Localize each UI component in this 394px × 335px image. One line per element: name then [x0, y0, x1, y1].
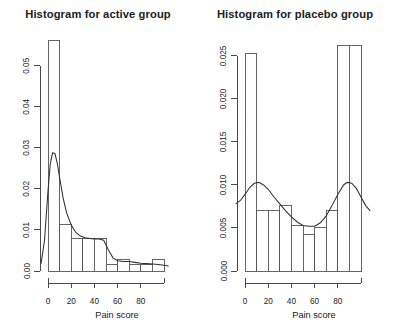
y-tick-label: 0.000: [220, 260, 229, 281]
histogram-bar: [257, 211, 269, 271]
y-axis-placebo: 0.0000.0050.0100.0150.0200.025: [220, 45, 238, 281]
histogram-bar: [71, 239, 83, 271]
histogram-bar: [349, 46, 361, 271]
x-tick-label: 80: [333, 297, 343, 306]
x-tick-label: 20: [264, 297, 274, 306]
x-tick-label: 60: [113, 297, 123, 306]
histogram-bar: [315, 227, 327, 271]
x-axis-active: 020406080: [46, 278, 164, 306]
histogram-bar: [326, 211, 338, 271]
y-axis-active: 0.000.010.020.030.040.05: [23, 57, 41, 279]
histogram-bar: [268, 211, 280, 271]
histogram-bar: [291, 225, 303, 271]
y-tick-label: 0.02: [23, 180, 32, 196]
histogram-bar: [94, 239, 106, 271]
x-tick-label: 40: [90, 297, 100, 306]
y-tick-label: 0.015: [220, 131, 229, 152]
y-tick-label: 0.03: [23, 139, 32, 155]
x-tick-label: 20: [67, 297, 77, 306]
chart-svg-placebo: Histogram for placebo group 0.0000.0050.…: [197, 0, 394, 335]
histogram-bar: [129, 264, 141, 271]
histogram-bar: [245, 53, 257, 271]
x-tick-label: 0: [46, 297, 51, 306]
bars-active: [48, 40, 164, 271]
panel-placebo-group: Histogram for placebo group 0.0000.0050.…: [197, 0, 394, 335]
y-tick-label: 0.010: [220, 174, 229, 195]
panel-active-group: Histogram for active group 0.000.010.020…: [0, 0, 197, 335]
y-tick-label: 0.01: [23, 222, 32, 238]
chart-svg-active: Histogram for active group 0.000.010.020…: [0, 0, 197, 335]
histogram-bar: [60, 225, 72, 271]
histogram-figure: Histogram for active group 0.000.010.020…: [0, 0, 394, 335]
y-tick-label: 0.00: [23, 263, 32, 279]
chart-title-placebo: Histogram for placebo group: [217, 8, 373, 20]
y-tick-label: 0.05: [23, 57, 32, 73]
y-tick-label: 0.04: [23, 98, 32, 114]
x-tick-label: 40: [287, 297, 297, 306]
x-tick-label: 60: [310, 297, 320, 306]
bars-placebo: [245, 46, 361, 271]
histogram-bar: [303, 234, 315, 271]
y-tick-label: 0.005: [220, 217, 229, 238]
histogram-bar: [48, 40, 60, 271]
y-tick-label: 0.020: [220, 88, 229, 109]
x-axis-title-active: Pain score: [95, 310, 138, 320]
histogram-bar: [83, 239, 95, 271]
histogram-bar: [338, 46, 350, 271]
histogram-bar: [106, 264, 118, 271]
histogram-bar: [141, 264, 153, 271]
x-tick-label: 80: [136, 297, 146, 306]
x-axis-title-placebo: Pain score: [292, 310, 335, 320]
x-tick-label: 0: [243, 297, 248, 306]
chart-title-active: Histogram for active group: [25, 8, 171, 20]
y-tick-label: 0.025: [220, 45, 229, 66]
x-axis-placebo: 020406080: [243, 278, 361, 306]
